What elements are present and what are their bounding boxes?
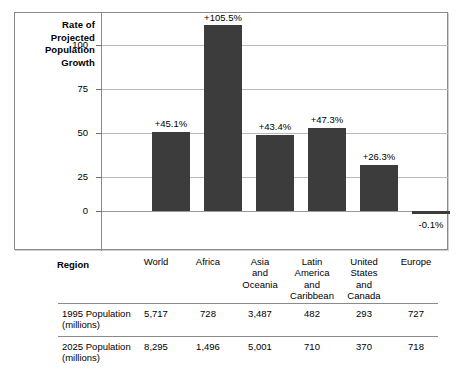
- plot-area: 100 75 50 25 0 +45.1% +105.5% +43.4%: [102, 13, 448, 251]
- bar-label-africa: +105.5%: [195, 13, 251, 23]
- column-header-united-states-and-canada: United States and Canada: [338, 256, 390, 302]
- column-header-africa-line-1: Africa: [182, 256, 234, 267]
- bar-europe: [412, 211, 450, 214]
- bar-asia-and-oceania: [256, 135, 294, 211]
- y-tick-50: [96, 133, 102, 134]
- cell-2025-europe: 718: [390, 341, 442, 352]
- column-header-latin-line-2: America: [286, 267, 338, 278]
- y-tick-25: [96, 177, 102, 178]
- table-row-label-2025-line-2: (millions): [62, 352, 154, 363]
- bar-world: [152, 132, 190, 211]
- y-tick-75: [96, 89, 102, 90]
- cell-2025-africa: 1,496: [182, 341, 234, 352]
- bar-united-states-and-canada: [360, 165, 398, 211]
- column-header-us-line-1: United: [338, 256, 390, 267]
- cell-1995-latin: 482: [286, 308, 338, 319]
- column-header-latin-line-3: and: [286, 279, 338, 290]
- cell-1995-europe: 727: [390, 308, 442, 319]
- y-tick-0: [96, 211, 102, 212]
- column-header-europe: Europe: [390, 256, 442, 267]
- bar-label-united-states-and-canada: +26.3%: [353, 152, 405, 162]
- column-header-latin-line-1: Latin: [286, 256, 338, 267]
- y-tick-label-25: 25: [54, 172, 88, 182]
- column-header-europe-line-1: Europe: [390, 256, 442, 267]
- chart-title-line-4: Growth: [19, 57, 95, 70]
- table-row-label-1995-line-2: (millions): [62, 319, 154, 330]
- column-header-asia-line-2: and: [234, 267, 286, 278]
- column-header-asia-line-1: Asia: [234, 256, 286, 267]
- column-header-world-line-1: World: [130, 256, 182, 267]
- bar-africa: [204, 25, 242, 211]
- y-tick-label-75: 75: [54, 84, 88, 94]
- gridline-100: [102, 45, 448, 46]
- table-rule-top: [58, 303, 438, 304]
- cell-1995-us: 293: [338, 308, 390, 319]
- table-region-header: Region: [18, 259, 128, 270]
- y-tick-label-0: 0: [54, 206, 88, 216]
- column-header-africa: Africa: [182, 256, 234, 267]
- cell-1995-world: 5,717: [130, 308, 182, 319]
- data-table: Region World Africa Asia and Oceania Lat…: [0, 250, 461, 377]
- column-header-latin-america-and-caribbean: Latin America and Caribbean: [286, 256, 338, 302]
- bar-label-world: +45.1%: [145, 119, 197, 129]
- table-rule-middle: [58, 336, 438, 337]
- y-tick-label-100: 100: [54, 40, 88, 50]
- population-growth-figure: Rate of Projected Population Growth 100 …: [0, 0, 461, 377]
- cell-1995-asia: 3,487: [234, 308, 286, 319]
- column-header-us-line-3: and: [338, 279, 390, 290]
- cell-2025-latin: 710: [286, 341, 338, 352]
- cell-1995-africa: 728: [182, 308, 234, 319]
- bar-label-europe: -0.1%: [405, 220, 457, 230]
- column-header-asia-line-3: Oceania: [234, 279, 286, 290]
- chart-title-line-1: Rate of: [19, 19, 95, 32]
- gridline-zero: [102, 211, 448, 212]
- gridline-75: [102, 89, 448, 90]
- cell-2025-world: 8,295: [130, 341, 182, 352]
- y-tick-label-50: 50: [54, 128, 88, 138]
- y-tick-100: [96, 45, 102, 46]
- bar-label-asia-and-oceania: +43.4%: [249, 122, 301, 132]
- cell-2025-asia: 5,001: [234, 341, 286, 352]
- cell-2025-us: 370: [338, 341, 390, 352]
- column-header-asia-and-oceania: Asia and Oceania: [234, 256, 286, 290]
- column-header-us-line-4: Canada: [338, 290, 390, 301]
- bar-label-latin-america-and-caribbean: +47.3%: [301, 115, 353, 125]
- bar-latin-america-and-caribbean: [308, 128, 346, 211]
- column-header-world: World: [130, 256, 182, 267]
- chart-frame: Rate of Projected Population Growth 100 …: [14, 12, 448, 250]
- column-header-latin-line-4: Caribbean: [286, 290, 338, 301]
- column-header-us-line-2: States: [338, 267, 390, 278]
